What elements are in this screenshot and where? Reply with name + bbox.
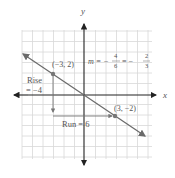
slope-m: m = −: [88, 57, 109, 66]
point-label-2: (3, −2): [114, 104, 136, 113]
x-axis-label: x: [162, 90, 167, 100]
y-axis-label: y: [80, 6, 85, 16]
slope-den1: 6: [114, 62, 118, 69]
slope-num1: 4: [114, 52, 118, 59]
slope-eq2: = −: [122, 57, 134, 66]
rise-label: Rise: [27, 75, 42, 85]
rise-value: = −4: [26, 85, 43, 95]
run-label: Run = 6: [62, 119, 89, 129]
slope-num2: 2: [145, 52, 148, 59]
point-label-1: (−3, 2): [52, 60, 74, 69]
point-3-neg2: [113, 114, 117, 118]
slope-den2: 3: [145, 62, 148, 69]
point-neg3-2: [51, 72, 55, 76]
coordinate-plane: x y (−3, 2) (3, −2) m = − 4 6 = − 2 3 Ri…: [0, 0, 175, 178]
